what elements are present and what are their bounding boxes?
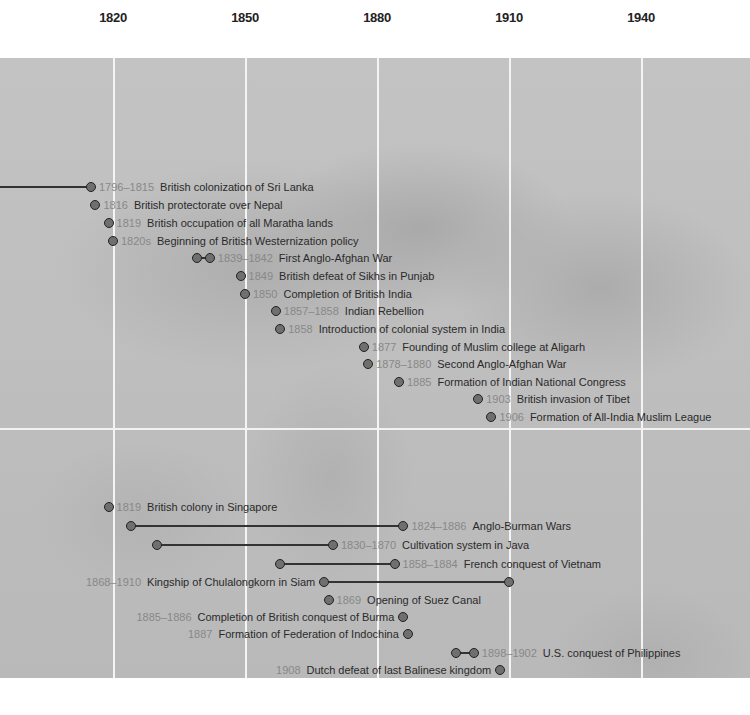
event-description: Indian Rebellion xyxy=(345,305,424,317)
connector-line xyxy=(324,581,509,583)
event-description: British invasion of Tibet xyxy=(517,393,630,405)
event-year: 1887 xyxy=(188,628,212,640)
event-marker-dot xyxy=(240,289,250,299)
axis-tick-label: 1820 xyxy=(99,10,127,25)
connector-line xyxy=(131,525,404,527)
event-label: 1887Formation of Federation of Indochina xyxy=(188,627,399,641)
event-label: 1878–1880Second Anglo-Afghan War xyxy=(376,357,566,371)
gridline xyxy=(641,58,643,678)
event-year: 1816 xyxy=(103,199,127,211)
event-description: Completion of British conquest of Burma xyxy=(198,611,395,623)
event-label: 1796–1815British colonization of Sri Lan… xyxy=(99,180,314,194)
connector-line xyxy=(0,186,91,188)
event-year: 1869 xyxy=(337,594,361,606)
event-year: 1878–1880 xyxy=(376,358,431,370)
event-year: 1819 xyxy=(117,501,141,513)
event-marker-dot xyxy=(324,595,334,605)
event-label: 1850Completion of British India xyxy=(253,287,412,301)
event-year: 1906 xyxy=(499,411,523,423)
event-description: U.S. conquest of Philippines xyxy=(543,647,681,659)
event-description: Kingship of Chulalongkorn in Siam xyxy=(147,576,315,588)
event-marker-dot xyxy=(104,502,114,512)
event-label: 1903British invasion of Tibet xyxy=(486,392,630,406)
event-year: 1908 xyxy=(276,664,300,676)
event-label: 1877Founding of Muslim college at Aligar… xyxy=(372,340,585,354)
event-label: 1816British protectorate over Nepal xyxy=(103,198,282,212)
event-description: Cultivation system in Java xyxy=(402,539,529,551)
event-year: 1857–1858 xyxy=(284,305,339,317)
event-year: 1885 xyxy=(407,376,431,388)
event-label: 1858Introduction of colonial system in I… xyxy=(288,322,505,336)
event-description: British protectorate over Nepal xyxy=(134,199,283,211)
event-label: 1857–1858Indian Rebellion xyxy=(284,304,424,318)
connector-line xyxy=(157,544,333,546)
event-label: 1908Dutch defeat of last Balinese kingdo… xyxy=(276,663,491,677)
event-marker-dot xyxy=(192,253,202,263)
event-label: 1839–1842First Anglo-Afghan War xyxy=(218,251,392,265)
event-year: 1796–1815 xyxy=(99,181,154,193)
event-marker-dot xyxy=(328,540,338,550)
event-year: 1849 xyxy=(249,270,273,282)
event-label: 1849British defeat of Sikhs in Punjab xyxy=(249,269,435,283)
event-marker-dot xyxy=(108,236,118,246)
event-description: Second Anglo-Afghan War xyxy=(437,358,566,370)
axis-tick-label: 1880 xyxy=(363,10,391,25)
event-description: British defeat of Sikhs in Punjab xyxy=(279,270,434,282)
event-description: Dutch defeat of last Balinese kingdom xyxy=(307,664,492,676)
event-marker-dot xyxy=(403,629,413,639)
event-description: Founding of Muslim college at Aligarh xyxy=(402,341,585,353)
event-marker-dot xyxy=(359,342,369,352)
event-label: 1885–1886Completion of British conquest … xyxy=(136,610,394,624)
event-description: Introduction of colonial system in India xyxy=(319,323,506,335)
event-label: 1819British colony in Singapore xyxy=(117,500,278,514)
event-marker-dot xyxy=(394,377,404,387)
event-description: Opening of Suez Canal xyxy=(367,594,481,606)
event-year: 1839–1842 xyxy=(218,252,273,264)
event-marker-dot xyxy=(126,521,136,531)
event-label: 1858–1884French conquest of Vietnam xyxy=(403,557,601,571)
event-year: 1868–1910 xyxy=(86,576,141,588)
event-description: British occupation of all Maratha lands xyxy=(147,217,333,229)
event-label: 1869Opening of Suez Canal xyxy=(337,593,481,607)
event-year: 1824–1886 xyxy=(411,520,466,532)
event-description: Formation of All-India Muslim League xyxy=(530,411,712,423)
event-description: Completion of British India xyxy=(283,288,411,300)
event-description: Formation of Indian National Congress xyxy=(437,376,625,388)
event-marker-dot xyxy=(271,306,281,316)
event-label: 1906Formation of All-India Muslim League xyxy=(499,410,711,424)
event-year: 1858–1884 xyxy=(403,558,458,570)
event-year: 1903 xyxy=(486,393,510,405)
event-marker-dot xyxy=(390,559,400,569)
event-label: 1820sBeginning of British Westernization… xyxy=(121,234,359,248)
event-description: Formation of Federation of Indochina xyxy=(218,628,398,640)
event-label: 1898–1902U.S. conquest of Philippines xyxy=(482,646,681,660)
event-year: 1858 xyxy=(288,323,312,335)
event-year: 1850 xyxy=(253,288,277,300)
event-marker-dot xyxy=(152,540,162,550)
event-label: 1885Formation of Indian National Congres… xyxy=(407,375,626,389)
event-description: French conquest of Vietnam xyxy=(464,558,601,570)
event-description: First Anglo-Afghan War xyxy=(279,252,392,264)
axis-tick-label: 1850 xyxy=(231,10,259,25)
event-description: Beginning of British Westernization poli… xyxy=(157,235,359,247)
event-year: 1898–1902 xyxy=(482,647,537,659)
event-marker-dot xyxy=(104,218,114,228)
event-year: 1830–1870 xyxy=(341,539,396,551)
event-description: British colony in Singapore xyxy=(147,501,277,513)
event-description: British colonization of Sri Lanka xyxy=(160,181,313,193)
event-marker-dot xyxy=(205,253,215,263)
event-label: 1819British occupation of all Maratha la… xyxy=(117,216,333,230)
event-label: 1830–1870Cultivation system in Java xyxy=(341,538,529,552)
event-year: 1819 xyxy=(117,217,141,229)
axis-tick-label: 1940 xyxy=(627,10,655,25)
event-marker-dot xyxy=(236,271,246,281)
connector-line xyxy=(280,563,394,565)
event-description: Anglo-Burman Wars xyxy=(472,520,571,532)
axis-tick-label: 1910 xyxy=(495,10,523,25)
event-marker-dot xyxy=(469,648,479,658)
event-marker-dot xyxy=(504,577,514,587)
event-year: 1820s xyxy=(121,235,151,247)
event-label: 1868–1910Kingship of Chulalongkorn in Si… xyxy=(86,575,315,589)
event-year: 1877 xyxy=(372,341,396,353)
event-marker-dot xyxy=(86,182,96,192)
